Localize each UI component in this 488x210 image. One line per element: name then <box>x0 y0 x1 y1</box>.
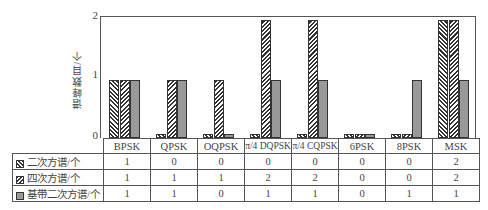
bar <box>109 80 119 138</box>
bar <box>308 20 318 138</box>
table-row: 四次方谱/个 1 1 1 2 2 0 0 2 <box>13 170 480 186</box>
y-tick-1: 1 <box>84 68 98 80</box>
series-label: 基带二次方谱/个 <box>27 189 100 200</box>
legend-swatch-icon <box>16 176 24 184</box>
bar <box>318 80 328 138</box>
category-label: 6PSK <box>339 139 386 154</box>
bar <box>449 20 459 138</box>
bar <box>177 80 187 138</box>
bar <box>130 80 140 138</box>
bar <box>438 20 448 138</box>
category-label: BPSK <box>104 139 151 154</box>
series-label: 二次方谱/个 <box>27 157 80 168</box>
legend-swatch-icon <box>16 160 24 168</box>
y-axis-label: 谱峰数目/个 <box>70 50 85 109</box>
data-table: BPSK QPSK OQPSK π/4 DQPSK π/4 CQPSK 6PSK… <box>12 138 480 202</box>
bar <box>120 80 130 138</box>
bar <box>412 80 422 138</box>
bar <box>261 20 271 138</box>
category-label: OQPSK <box>198 139 245 154</box>
category-label: MSK <box>433 139 480 154</box>
category-label: π/4 CQPSK <box>292 139 339 154</box>
series-label: 四次方谱/个 <box>27 173 80 184</box>
table-row: 基带二次方谱/个 1 1 0 1 1 0 1 1 <box>13 186 480 202</box>
table-row: 二次方谱/个 1 0 0 0 0 0 0 2 <box>13 154 480 170</box>
bar <box>459 80 469 138</box>
category-label: π/4 DQPSK <box>245 139 292 154</box>
bar <box>167 80 177 138</box>
plot-area <box>100 16 476 138</box>
category-label: QPSK <box>151 139 198 154</box>
table-header-row: BPSK QPSK OQPSK π/4 DQPSK π/4 CQPSK 6PSK… <box>13 139 480 154</box>
category-label: 8PSK <box>386 139 433 154</box>
y-tick-2: 2 <box>84 9 98 21</box>
bar <box>271 80 281 138</box>
legend-swatch-icon <box>16 192 24 200</box>
bar <box>214 80 224 138</box>
